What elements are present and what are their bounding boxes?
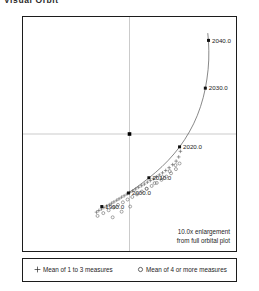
measure-circle xyxy=(96,214,99,217)
epoch-label: 2000.0 xyxy=(132,189,151,196)
measure-circle xyxy=(174,164,177,167)
measure-circle xyxy=(150,184,153,187)
orbit-plot-frame: 2040.02030.02020.02010.02000.01990.0 10.… xyxy=(22,16,237,252)
measure-circle xyxy=(120,210,123,213)
epoch-tick xyxy=(127,191,130,194)
epoch-tick xyxy=(147,176,150,179)
measure-plus xyxy=(95,210,99,214)
chart-title-strip: Visual Orbit xyxy=(0,0,259,9)
measure-circle xyxy=(126,198,129,201)
measure-circle xyxy=(153,182,156,185)
measure-plus xyxy=(167,166,171,170)
measure-plus xyxy=(179,150,183,154)
plus-marker-icon xyxy=(33,266,41,273)
page-title: Visual Orbit xyxy=(4,0,59,5)
enlargement-line-1: 10.0x enlargement xyxy=(177,228,230,237)
epoch-label: 2020.0 xyxy=(183,143,202,150)
primary-star-marker xyxy=(128,132,132,136)
enlargement-line-2: from full orbital plot xyxy=(177,237,230,246)
circle-marker-icon xyxy=(136,266,144,273)
measure-plus xyxy=(171,163,175,167)
enlargement-annotation: 10.0x enlargement from full orbital plot xyxy=(177,228,230,245)
orbit-plot-canvas: 2040.02030.02020.02010.02000.01990.0 xyxy=(23,17,236,251)
legend-entry-plus: Mean of 1 to 3 measures xyxy=(33,266,113,273)
legend-frame: Mean of 1 to 3 measures Mean of 4 or mor… xyxy=(22,258,237,282)
measure-plus xyxy=(143,182,147,186)
measure-circle xyxy=(111,216,114,219)
measure-plus xyxy=(174,159,178,163)
measure-plus xyxy=(164,169,168,173)
epoch-tick xyxy=(178,145,181,148)
measure-circle xyxy=(178,162,181,165)
measure-plus xyxy=(177,155,181,159)
epoch-label: 2010.0 xyxy=(152,174,171,181)
epoch-label: 2040.0 xyxy=(212,37,231,44)
legend-entry-circle: Mean of 4 or more measures xyxy=(136,266,227,273)
epoch-tick xyxy=(207,39,210,42)
epoch-tick xyxy=(204,87,207,90)
measure-circle xyxy=(174,168,177,171)
epoch-tick xyxy=(100,205,103,208)
measure-circle xyxy=(102,212,105,215)
measure-circle xyxy=(129,205,132,208)
legend-label-1: Mean of 1 to 3 measures xyxy=(43,266,113,273)
epoch-label: 2030.0 xyxy=(209,84,228,91)
legend-label-2: Mean of 4 or more measures xyxy=(146,266,227,273)
measure-plus xyxy=(97,209,101,213)
measure-plus xyxy=(146,180,150,184)
epoch-label: 1990.0 xyxy=(105,203,124,210)
